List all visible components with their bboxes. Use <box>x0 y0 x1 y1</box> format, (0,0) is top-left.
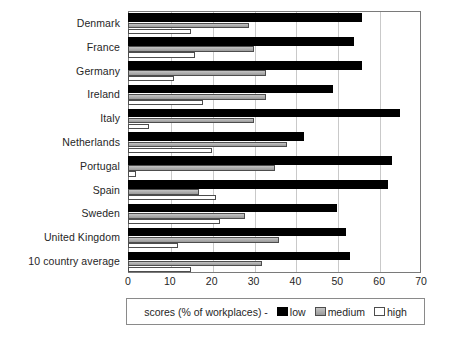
legend-label-high: high <box>387 306 407 318</box>
x-axis-tick-label: 20 <box>206 275 218 287</box>
category-label: Sweden <box>0 202 124 226</box>
legend-entry-medium: medium <box>315 306 365 318</box>
bar-medium <box>128 165 275 171</box>
bar-chart: DenmarkFranceGermanyIrelandItalyNetherla… <box>0 0 454 337</box>
legend-swatch-low-icon <box>277 307 288 316</box>
legend-swatch-medium-icon <box>315 307 326 316</box>
category-axis-labels: DenmarkFranceGermanyIrelandItalyNetherla… <box>0 11 124 273</box>
bar-group <box>128 130 421 154</box>
bar-group <box>128 82 421 106</box>
x-axis-tick-label: 30 <box>248 275 260 287</box>
category-label: Germany <box>0 59 124 83</box>
x-axis-tick-label: 60 <box>373 275 385 287</box>
bar-high <box>128 243 178 248</box>
bar-low <box>128 13 362 22</box>
bar-medium <box>128 142 287 148</box>
legend-entry-low: low <box>277 306 306 318</box>
bars-container <box>128 11 421 273</box>
bar-medium <box>128 189 199 195</box>
bar-low <box>128 156 392 165</box>
bar-low <box>128 37 354 46</box>
x-axis-tick-label: 10 <box>164 275 176 287</box>
bar-group <box>128 249 421 273</box>
bar-high <box>128 219 220 224</box>
bar-high <box>128 76 174 81</box>
bar-low <box>128 228 346 237</box>
bar-medium <box>128 237 279 243</box>
bar-medium <box>128 118 254 124</box>
bar-high <box>128 195 216 200</box>
bar-medium <box>128 261 262 267</box>
bar-low <box>128 252 350 261</box>
bar-high <box>128 267 191 272</box>
bar-group <box>128 225 421 249</box>
category-label: Italy <box>0 106 124 130</box>
bar-low <box>128 61 362 70</box>
category-label: Spain <box>0 178 124 202</box>
bar-group <box>128 178 421 202</box>
category-label: Ireland <box>0 82 124 106</box>
category-label: United Kingdom <box>0 225 124 249</box>
category-label: Denmark <box>0 11 124 35</box>
x-axis-tick-label: 0 <box>125 275 131 287</box>
bar-medium <box>128 70 266 76</box>
bar-group <box>128 35 421 59</box>
bar-low <box>128 180 388 189</box>
bar-low <box>128 109 400 118</box>
legend-entry-high: high <box>374 306 407 318</box>
x-axis-tick-label: 70 <box>415 275 427 287</box>
x-axis-ticks: 010203040506070 <box>128 275 421 291</box>
bar-low <box>128 85 333 94</box>
bar-medium <box>128 23 249 29</box>
bar-group <box>128 106 421 130</box>
bar-medium <box>128 213 245 219</box>
bar-medium <box>128 94 266 100</box>
bar-high <box>128 100 203 105</box>
bar-group <box>128 59 421 83</box>
bar-group <box>128 154 421 178</box>
category-label: 10 country average <box>0 249 124 273</box>
legend-label-medium: medium <box>328 306 365 318</box>
x-axis-tick-label: 50 <box>331 275 343 287</box>
x-axis-tick-label: 40 <box>290 275 302 287</box>
bar-high <box>128 124 149 129</box>
bar-high <box>128 148 212 153</box>
bar-group <box>128 202 421 226</box>
legend-title: scores (% of workplaces) - <box>144 306 268 318</box>
category-label: Netherlands <box>0 130 124 154</box>
bar-group <box>128 11 421 35</box>
bar-low <box>128 204 337 213</box>
bar-low <box>128 132 304 141</box>
bar-high <box>128 171 136 176</box>
legend-swatch-high-icon <box>374 307 385 316</box>
category-label: Portugal <box>0 154 124 178</box>
bar-medium <box>128 46 254 52</box>
chart-legend: scores (% of workplaces) - low medium hi… <box>126 298 425 325</box>
category-label: France <box>0 35 124 59</box>
legend-label-low: low <box>290 306 306 318</box>
bar-high <box>128 29 191 34</box>
bar-high <box>128 52 195 57</box>
